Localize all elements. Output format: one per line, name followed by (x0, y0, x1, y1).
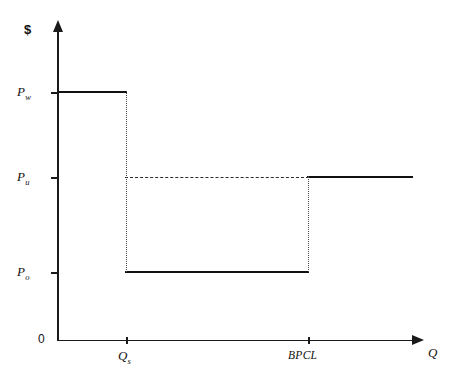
x-tick-qs (126, 337, 128, 344)
y-tick-po (51, 272, 58, 274)
series-segment-pu-plateau (307, 176, 413, 178)
x-axis-arrow-icon (412, 335, 424, 345)
origin-label: 0 (38, 332, 45, 346)
y-label-pw: Pw (17, 84, 31, 102)
y-axis-title: $ (24, 22, 31, 37)
price-step-chart: $ Q 0 Pw Pu Po Qs BPCL (0, 0, 455, 381)
y-label-po-base: P (17, 264, 25, 279)
y-label-pu-sub: u (25, 177, 29, 187)
series-segment-po-plateau (125, 271, 309, 273)
y-label-pu: Pu (17, 169, 30, 187)
series-connector-qs-dotted (126, 91, 127, 272)
x-label-qs: Qs (118, 348, 131, 366)
x-label-qs-sub: s (128, 356, 132, 366)
y-label-pu-base: P (17, 169, 25, 184)
x-tick-bpcl (308, 337, 310, 344)
x-label-bpcl: BPCL (288, 349, 317, 361)
x-label-qs-base: Q (118, 348, 128, 363)
y-label-po: Po (17, 264, 30, 282)
x-axis-title: Q (428, 345, 438, 361)
x-axis-line (57, 340, 420, 342)
series-connector-bpcl-dotted (308, 176, 309, 272)
y-axis-line (57, 30, 59, 341)
y-label-po-sub: o (25, 272, 29, 282)
series-segment-pw-plateau (58, 91, 127, 93)
y-label-pw-sub: w (25, 92, 31, 102)
series-segment-pu-reference-dashed (125, 177, 309, 178)
y-axis-arrow-icon (53, 20, 63, 32)
y-tick-pu (51, 177, 58, 179)
y-label-pw-base: P (17, 84, 25, 99)
y-tick-pw (51, 92, 58, 94)
